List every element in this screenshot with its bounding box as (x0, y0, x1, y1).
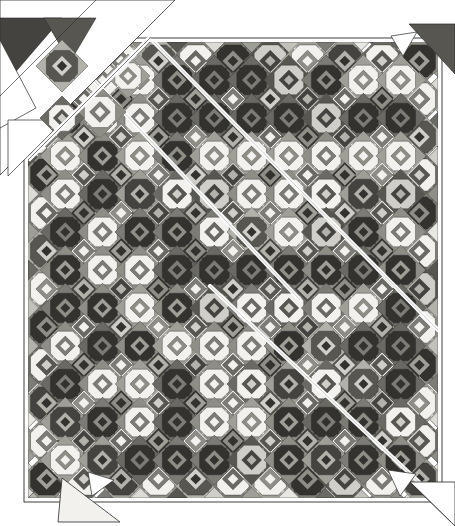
quilt-canvas (0, 0, 455, 526)
quilt-photograph: Diagonal-set patchwork quilt pieced cott… (0, 0, 455, 526)
